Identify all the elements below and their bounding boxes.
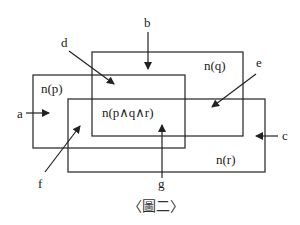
set-p-label: n(p) [41,81,63,96]
venn-box-diagram: n(p) n(q) n(r) n(p∧q∧r) a b c d e f g 〈圖… [0,0,300,225]
pointer-a-label: a [17,106,23,121]
pointer-b-label: b [144,15,151,30]
arrow-e [212,74,256,107]
pointer-d-label: d [61,35,68,50]
pointer-f-label: f [38,176,43,191]
intersection-label: n(p∧q∧r) [102,105,154,120]
pointer-g-label: g [158,176,165,191]
figure-caption: 〈圖二〉 [128,198,184,214]
pointer-c-label: c [282,128,288,143]
pointer-e-label: e [256,55,262,70]
set-r-label: n(r) [216,152,236,167]
set-q-label: n(q) [204,58,226,73]
arrow-f [45,126,80,172]
